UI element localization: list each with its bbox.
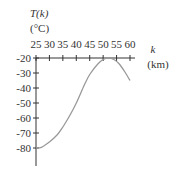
y-tick-label: -20 [16, 52, 31, 64]
y-tick-label: -30 [16, 67, 31, 79]
x-tick-label: 55 [111, 38, 123, 50]
x-tick-label: 45 [84, 38, 96, 50]
x-tick-label: 25 [31, 38, 43, 50]
y-axis-title-line2: (°C) [30, 22, 49, 35]
y-tick-label: -80 [16, 142, 31, 154]
x-axis-title-line1: k [151, 43, 157, 55]
x-tick-label: 60 [125, 38, 137, 50]
x-axis-title-line2: (km) [147, 58, 169, 71]
y-axis-title-line1: T(k) [30, 7, 49, 20]
y-axis-title: T(k) (°C) [30, 7, 49, 35]
x-tick-label: 35 [57, 38, 69, 50]
y-tick-label: -60 [16, 112, 31, 124]
y-tick-label: -70 [16, 127, 31, 139]
temperature-curve [36, 58, 130, 148]
x-axis-title: k (km) [147, 43, 169, 71]
x-tick-label: 50 [98, 38, 110, 50]
x-tick-label: 40 [71, 38, 83, 50]
chart: T(k) (°C) k (km) 2530354045505560 -20-30… [0, 0, 182, 174]
y-tick-label: -50 [16, 97, 31, 109]
x-tick-label: 30 [44, 38, 56, 50]
y-tick-label: -40 [16, 82, 31, 94]
